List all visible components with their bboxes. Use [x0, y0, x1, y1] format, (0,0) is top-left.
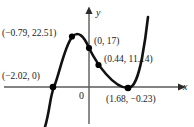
cubic-function-graph: (−0.79, 22.51) (0, 17) (0.44, 11.14) (−2…: [0, 0, 194, 127]
plot-canvas: [0, 0, 194, 127]
point-local-min: [125, 85, 132, 92]
x-axis-label: x: [183, 82, 187, 92]
y-axis-arrow-icon: [85, 7, 92, 15]
point-y-intercept: [86, 45, 92, 51]
origin-label: 0: [79, 91, 84, 101]
label-local-min: (1.68, −0.23): [106, 95, 156, 105]
label-x-intercept-left: (−2.02, 0): [2, 72, 40, 82]
point-x-intercept-left: [50, 84, 57, 91]
label-local-max: (−0.79, 22.51): [2, 29, 56, 39]
y-axis-label: y: [96, 8, 100, 18]
label-y-intercept: (0, 17): [94, 37, 119, 47]
cubic-curve: [45, 17, 148, 127]
point-interior: [95, 62, 101, 68]
point-local-max: [69, 33, 75, 39]
label-interior-point: (0.44, 11.14): [104, 55, 153, 65]
